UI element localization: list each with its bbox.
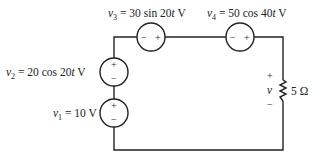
source-v3: − + v3 = 30 sin 20t V — [108, 7, 186, 51]
resistor-plus: + — [267, 70, 273, 81]
resistor-5-ohm: 5 Ω + v − — [267, 70, 308, 110]
resistor-value: 5 Ω — [291, 85, 308, 97]
source-v4-label: v4 = 50 cos 40t V — [207, 7, 287, 22]
source-v1: + − v1 = 10 V — [53, 99, 128, 127]
wires — [114, 37, 283, 150]
source-v2-label: v2 = 20 cos 20t V — [6, 66, 86, 81]
circuit-diagram: − + v3 = 30 sin 20t V − + v4 = 50 cos 40… — [0, 0, 327, 160]
source-v4: − + v4 = 50 cos 40t V — [207, 7, 287, 51]
resistor-voltage-label: v — [267, 84, 273, 96]
minus-sign: − — [230, 32, 236, 43]
minus-sign: − — [111, 114, 117, 125]
plus-sign: + — [155, 32, 161, 43]
minus-sign: − — [111, 73, 117, 84]
source-v1-label: v1 = 10 V — [53, 107, 98, 122]
source-v2: + − v2 = 20 cos 20t V — [6, 58, 128, 86]
plus-sign: + — [111, 100, 117, 111]
plus-sign: + — [111, 59, 117, 70]
resistor-minus: − — [267, 99, 273, 110]
source-v3-label: v3 = 30 sin 20t V — [108, 7, 186, 22]
minus-sign: − — [141, 32, 147, 43]
plus-sign: + — [244, 32, 250, 43]
